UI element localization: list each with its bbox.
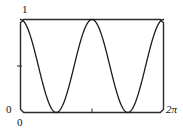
- x-axis-max-label: 2π: [166, 104, 177, 115]
- plot-border: [21, 20, 164, 113]
- y-axis-max-label: 1: [22, 4, 28, 15]
- x-axis-min-label: 0: [17, 117, 23, 128]
- plot-canvas: [0, 0, 183, 133]
- plot-frame: [21, 20, 164, 113]
- chart-figure: 1 0 0 2π: [0, 0, 183, 133]
- y-axis-min-label: 0: [6, 104, 12, 115]
